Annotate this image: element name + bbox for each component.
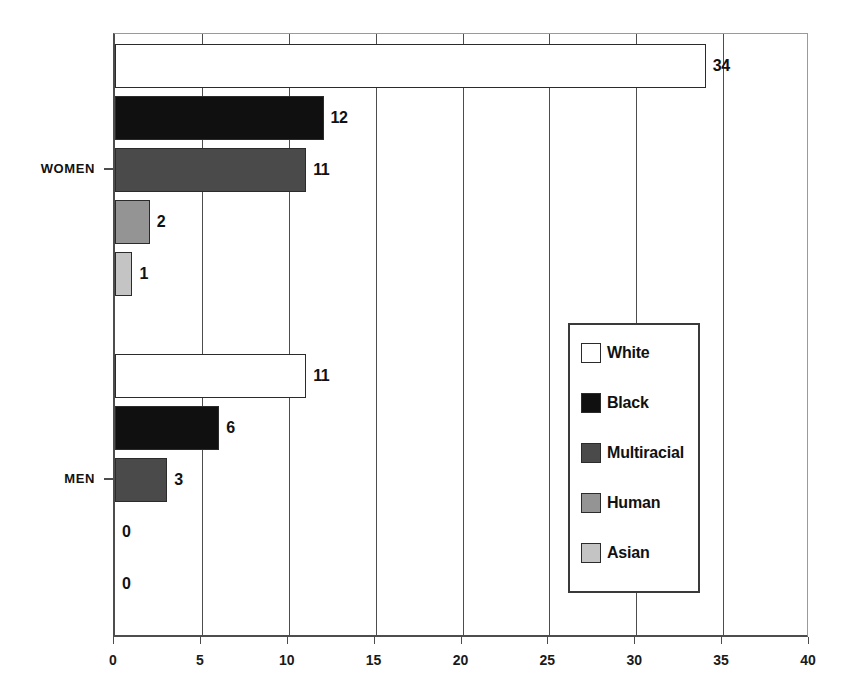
bar-value-label: 1 bbox=[139, 266, 148, 282]
bar-women-multiracial bbox=[115, 148, 306, 192]
x-tick-20 bbox=[461, 637, 462, 644]
legend-swatch-asian bbox=[581, 543, 601, 563]
gridline-35 bbox=[723, 34, 724, 635]
legend-item-asian: Asian bbox=[581, 543, 650, 563]
legend-item-human: Human bbox=[581, 493, 660, 513]
legend-swatch-multiracial bbox=[581, 443, 601, 463]
chart-legend: WhiteBlackMultiracialHumanAsian bbox=[568, 323, 700, 593]
legend-swatch-white bbox=[581, 343, 601, 363]
bar-women-white bbox=[115, 44, 706, 88]
legend-swatch-human bbox=[581, 493, 601, 513]
legend-label: Multiracial bbox=[607, 445, 684, 461]
x-tick-label-5: 5 bbox=[196, 653, 204, 667]
x-tick-label-25: 25 bbox=[540, 653, 556, 667]
legend-item-black: Black bbox=[581, 393, 649, 413]
legend-label: Asian bbox=[607, 545, 650, 561]
x-tick-label-10: 10 bbox=[279, 653, 295, 667]
bar-value-label: 11 bbox=[313, 162, 329, 178]
bar-women-human bbox=[115, 200, 150, 244]
x-tick-label-40: 40 bbox=[800, 653, 816, 667]
bar-value-label: 0 bbox=[122, 524, 131, 540]
legend-item-multiracial: Multiracial bbox=[581, 443, 684, 463]
legend-swatch-black bbox=[581, 393, 601, 413]
x-tick-40 bbox=[808, 637, 809, 644]
gridline-15 bbox=[376, 34, 377, 635]
legend-label: White bbox=[607, 345, 650, 361]
bar-chart: 34121121116300 0510152025303540 WOMENMEN… bbox=[0, 0, 842, 693]
bar-men-multiracial bbox=[115, 458, 167, 502]
legend-item-white: White bbox=[581, 343, 650, 363]
bar-value-label: 3 bbox=[174, 472, 183, 488]
x-tick-30 bbox=[634, 637, 635, 644]
x-tick-35 bbox=[721, 637, 722, 644]
plot-area: 34121121116300 bbox=[113, 33, 808, 637]
bar-value-label: 34 bbox=[713, 58, 730, 74]
bar-value-label: 0 bbox=[122, 576, 131, 592]
group-label-women: WOMEN bbox=[0, 162, 95, 175]
bar-men-white bbox=[115, 354, 306, 398]
legend-label: Black bbox=[607, 395, 649, 411]
group-tick bbox=[104, 478, 113, 480]
bar-men-black bbox=[115, 406, 219, 450]
bar-value-label: 6 bbox=[226, 420, 235, 436]
bar-women-black bbox=[115, 96, 324, 140]
x-tick-label-0: 0 bbox=[109, 653, 117, 667]
bar-value-label: 12 bbox=[331, 110, 348, 126]
x-tick-25 bbox=[547, 637, 548, 644]
bar-value-label: 2 bbox=[157, 214, 166, 230]
bar-value-label: 11 bbox=[313, 368, 329, 384]
gridline-20 bbox=[463, 34, 464, 635]
x-tick-label-20: 20 bbox=[453, 653, 469, 667]
x-tick-15 bbox=[374, 637, 375, 644]
x-tick-5 bbox=[200, 637, 201, 644]
x-tick-label-30: 30 bbox=[626, 653, 642, 667]
bar-women-asian bbox=[115, 252, 132, 296]
x-tick-label-35: 35 bbox=[713, 653, 729, 667]
x-tick-10 bbox=[287, 637, 288, 644]
x-tick-label-15: 15 bbox=[366, 653, 382, 667]
group-tick bbox=[104, 168, 113, 170]
legend-label: Human bbox=[607, 495, 660, 511]
x-tick-0 bbox=[113, 637, 114, 644]
group-label-men: MEN bbox=[0, 472, 95, 485]
gridline-25 bbox=[549, 34, 550, 635]
